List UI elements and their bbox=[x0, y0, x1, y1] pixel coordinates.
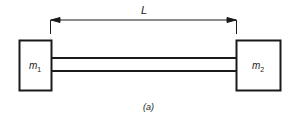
rod bbox=[51, 58, 236, 71]
arrow-right-icon bbox=[227, 18, 236, 23]
dimension-label: L bbox=[141, 4, 147, 16]
mass-left-subscript: 1 bbox=[37, 66, 41, 73]
figure-caption: (a) bbox=[143, 102, 154, 112]
dimension-line bbox=[51, 18, 237, 35]
mass-right-label: m2 bbox=[252, 60, 264, 73]
arrow-left-icon bbox=[51, 18, 60, 23]
mass-left-label: m1 bbox=[29, 60, 41, 73]
mass-right-subscript: 2 bbox=[260, 66, 264, 73]
